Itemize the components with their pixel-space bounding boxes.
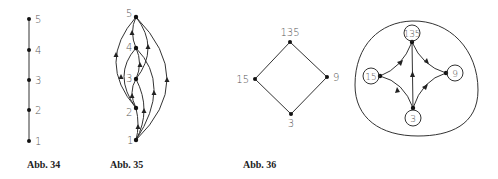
node-15 <box>253 77 257 81</box>
node-3 <box>134 77 138 81</box>
node-1 <box>27 139 31 143</box>
node-label-3: 3 <box>35 75 41 86</box>
node-label-2: 2 <box>126 107 132 118</box>
node-5 <box>134 15 138 19</box>
caption-36: Abb. 36 <box>243 159 276 170</box>
node-label-2: 2 <box>35 105 41 116</box>
node-label-3: 3 <box>288 118 294 129</box>
edge-9-135 <box>412 42 446 73</box>
node-2 <box>134 106 138 110</box>
arrowheads <box>114 30 170 129</box>
node-label-3: 3 <box>126 73 132 84</box>
node-label-1: 1 <box>35 136 41 147</box>
edge-3-9 <box>413 73 446 108</box>
figure-36: 135 15 9 3 Abb. 36 <box>236 27 339 170</box>
node-label-9: 9 <box>452 69 458 79</box>
node-5 <box>27 17 31 21</box>
caption-35: Abb. 35 <box>110 159 143 170</box>
node-label-15: 15 <box>236 74 249 85</box>
edge-1-5 <box>136 17 167 140</box>
node-4 <box>27 48 31 52</box>
node-4 <box>134 46 138 50</box>
node-label-15: 15 <box>365 72 376 82</box>
node-2 <box>27 108 31 112</box>
node-label-3: 3 <box>410 114 416 124</box>
caption-34: Abb. 34 <box>27 159 60 170</box>
node-135 <box>288 40 292 44</box>
node-label-1: 1 <box>127 135 133 146</box>
node-label-5: 5 <box>35 14 41 25</box>
edge-15-135 <box>380 42 412 76</box>
diamond-edges <box>255 42 327 114</box>
figure-35: 5 4 3 2 1 Abb. 35 <box>110 8 170 170</box>
node-label-4: 4 <box>35 45 41 56</box>
edge-1-2 <box>136 108 138 140</box>
figure-34: 5 4 3 2 1 Abb. 34 <box>27 14 60 170</box>
diagram-canvas: 5 4 3 2 1 Abb. 34 <box>0 0 498 179</box>
node-3 <box>27 78 31 82</box>
node-label-135: 135 <box>403 29 420 39</box>
node-1 <box>134 138 138 142</box>
node-label-4: 4 <box>126 42 132 53</box>
node-label-9: 9 <box>333 72 339 83</box>
node-label-5: 5 <box>126 8 132 19</box>
node-9 <box>325 75 329 79</box>
node-label-135: 135 <box>280 27 299 38</box>
figure-enclosed-digraph: 135 15 9 3 <box>355 21 478 136</box>
node-3 <box>289 112 293 116</box>
